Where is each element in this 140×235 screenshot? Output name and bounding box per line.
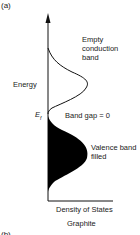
panel-label-b: (b) [1, 230, 11, 235]
material-label: Graphite [67, 219, 96, 228]
valence-band-filled [48, 116, 88, 192]
fermi-level-label: Ef [35, 110, 41, 123]
arrow-up-icon [46, 13, 51, 23]
valence-band-label: Valence band filled [91, 143, 136, 161]
panel-label-a: (a) [1, 1, 11, 10]
conduction-band-label: Empty conduction band [82, 35, 118, 62]
band-gap-label: Band gap = 0 [65, 111, 110, 120]
energy-axis-label: Energy [13, 80, 37, 89]
dos-axis-label: Density of States [56, 205, 113, 214]
